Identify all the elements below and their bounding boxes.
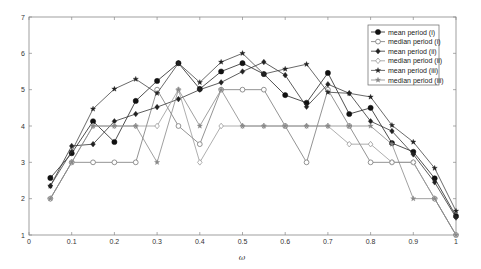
filled-circle-marker-icon	[347, 111, 352, 116]
open-circle-marker-icon	[176, 124, 181, 129]
legend: mean period (i)median period (i)mean per…	[368, 25, 444, 85]
filled-circle-marker-icon	[368, 105, 373, 110]
filled-circle-marker-icon	[112, 139, 117, 144]
filled-circle-marker-icon	[240, 61, 245, 66]
open-circle-marker-icon	[197, 142, 202, 147]
legend-label: median period (ii)	[388, 57, 442, 65]
legend-label: mean period (ii)	[388, 48, 437, 56]
filled-circle-marker-icon	[325, 70, 330, 75]
legend-label: mean period (i)	[388, 29, 435, 37]
x-tick-label: 0.9	[408, 238, 418, 245]
x-tick-label: 0.2	[110, 238, 120, 245]
x-tick-label: 1	[454, 238, 458, 245]
filled-circle-marker-icon	[219, 69, 224, 74]
open-circle-marker-icon	[91, 160, 96, 165]
filled-circle-marker-icon	[133, 98, 138, 103]
x-tick-label: 0.8	[366, 238, 376, 245]
y-tick-label: 3	[21, 159, 25, 166]
open-circle-marker-icon	[304, 160, 309, 165]
x-tick-label: 0.5	[238, 238, 248, 245]
open-circle-marker-icon	[368, 160, 373, 165]
y-tick-label: 2	[21, 195, 25, 202]
y-tick-label: 5	[21, 86, 25, 93]
y-tick-label: 7	[21, 14, 25, 21]
x-tick-label: 0.6	[280, 238, 290, 245]
filled-circle-marker-icon	[155, 78, 160, 83]
legend-label: median period (i)	[388, 38, 441, 46]
open-circle-marker-icon	[112, 160, 117, 165]
open-circle-marker-icon	[240, 87, 245, 92]
open-circle-marker-icon	[261, 87, 266, 92]
y-tick-label: 4	[21, 123, 25, 130]
legend-label: median period (iii)	[388, 77, 444, 85]
x-tick-label: 0.4	[195, 238, 205, 245]
y-tick-label: 6	[21, 50, 25, 57]
filled-circle-marker-icon	[375, 29, 380, 34]
x-tick-label: 0.3	[152, 238, 162, 245]
x-axis-label: ω	[239, 253, 246, 262]
x-tick-label: 0.7	[323, 238, 333, 245]
x-tick-label: 0	[27, 238, 31, 245]
filled-circle-marker-icon	[283, 93, 288, 98]
line-chart: 1234567 00.10.20.30.40.50.60.70.80.91 ω …	[0, 0, 481, 269]
open-circle-marker-icon	[133, 160, 138, 165]
y-tick-label: 1	[21, 232, 25, 239]
open-circle-marker-icon	[376, 39, 381, 44]
x-tick-label: 0.1	[67, 238, 77, 245]
filled-circle-marker-icon	[48, 175, 53, 180]
legend-label: mean period (iii)	[388, 67, 438, 75]
